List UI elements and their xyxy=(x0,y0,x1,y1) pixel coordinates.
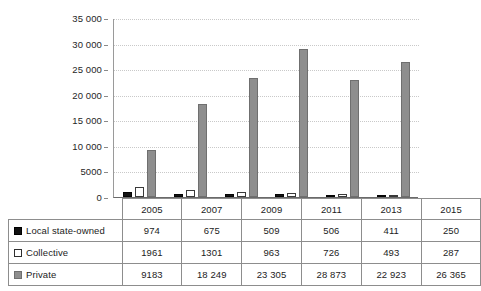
table-cell-2011: 726 xyxy=(301,242,361,264)
bar-private-2005 xyxy=(147,150,156,197)
table-cell-2007: 675 xyxy=(182,220,242,242)
bar-private-2009 xyxy=(249,78,258,197)
table-row-years: 200520072009201120132015 xyxy=(9,199,481,220)
y-tick-mark xyxy=(104,70,108,71)
bar-collective-2005 xyxy=(135,187,144,197)
y-tick-label: 35 000 xyxy=(72,14,102,24)
plot-area xyxy=(113,19,418,198)
y-tick-mark xyxy=(104,96,108,97)
table-cell-2013: 493 xyxy=(361,242,421,264)
table-row: Private918318 24923 30528 87322 92326 36… xyxy=(9,264,481,286)
legend-swatch-icon xyxy=(14,227,22,235)
table-cell-2011: 506 xyxy=(301,220,361,242)
table-cell-2009: 23 305 xyxy=(242,264,302,286)
table-cell-2005: 9183 xyxy=(122,264,182,286)
series-label: Local state-owned xyxy=(26,225,105,236)
y-tick-label: 15 000 xyxy=(72,116,102,126)
bar-collective-2007 xyxy=(186,190,195,197)
bar-collective-2009 xyxy=(237,192,246,197)
column-header-2013: 2013 xyxy=(361,199,421,220)
table-cell-2015: 26 365 xyxy=(421,264,481,286)
y-tick-mark xyxy=(104,172,108,173)
legend-swatch-icon xyxy=(14,271,22,279)
table-cell-2007: 18 249 xyxy=(182,264,242,286)
table-cell-2005: 974 xyxy=(122,220,182,242)
series-label: Collective xyxy=(26,247,68,258)
legend-item-private: Private xyxy=(9,264,123,286)
legend-swatch-icon xyxy=(14,249,22,257)
column-header-2011: 2011 xyxy=(301,199,361,220)
bar-collective-2015 xyxy=(389,195,398,197)
y-tick-label: 25 000 xyxy=(72,65,102,75)
table-cell-2013: 411 xyxy=(361,220,421,242)
bar-group-2013 xyxy=(317,18,368,197)
bar-group-2011 xyxy=(267,18,318,197)
bar-private-2013 xyxy=(350,80,359,197)
bar-group-2007 xyxy=(165,18,216,197)
bar-collective-2011 xyxy=(287,193,296,197)
bar-collective-2013 xyxy=(338,194,347,197)
table-cell-2009: 963 xyxy=(242,242,302,264)
y-tick-mark xyxy=(104,19,108,20)
bar-local-state-owned-2005 xyxy=(123,192,132,197)
bar-local-state-owned-2007 xyxy=(174,194,183,197)
y-tick-label: 5000 xyxy=(80,167,102,177)
bar-local-state-owned-2015 xyxy=(377,195,386,197)
table-cell-2011: 28 873 xyxy=(301,264,361,286)
y-tick-mark xyxy=(104,147,108,148)
table-cell-2007: 1301 xyxy=(182,242,242,264)
table-row: Collective19611301963726493287 xyxy=(9,242,481,264)
bar-private-2015 xyxy=(401,62,410,197)
bar-group-2015 xyxy=(368,18,419,197)
bar-group-2005 xyxy=(114,18,165,197)
legend-item-collective: Collective xyxy=(9,242,123,264)
table-cell-2009: 509 xyxy=(242,220,302,242)
table-body: 200520072009201120132015Local state-owne… xyxy=(9,199,481,286)
y-tick-label: 30 000 xyxy=(72,40,102,50)
bar-private-2011 xyxy=(299,49,308,197)
y-tick-label: 10 000 xyxy=(72,142,102,152)
bar-local-state-owned-2009 xyxy=(225,194,234,197)
bar-private-2007 xyxy=(198,104,207,197)
column-header-2007: 2007 xyxy=(182,199,242,220)
bar-group-2009 xyxy=(216,18,267,197)
column-header-2009: 2009 xyxy=(242,199,302,220)
table-cell-2015: 287 xyxy=(421,242,481,264)
table-row: Local state-owned974675509506411250 xyxy=(9,220,481,242)
y-tick-mark xyxy=(104,45,108,46)
column-header-2015: 2015 xyxy=(421,199,481,220)
table-cell-2015: 250 xyxy=(421,220,481,242)
y-tick-mark xyxy=(104,121,108,122)
series-label: Private xyxy=(26,269,56,280)
table-cell-2005: 1961 xyxy=(122,242,182,264)
bar-local-state-owned-2013 xyxy=(326,195,335,197)
table-corner-cell xyxy=(9,199,123,220)
column-header-2005: 2005 xyxy=(122,199,182,220)
table-cell-2013: 22 923 xyxy=(361,264,421,286)
data-table: 200520072009201120132015Local state-owne… xyxy=(8,198,481,286)
bar-local-state-owned-2011 xyxy=(275,194,284,197)
y-tick-label: 20 000 xyxy=(72,91,102,101)
y-axis: 35 00030 00025 00020 00015 00010 0005000… xyxy=(0,19,108,198)
legend-item-local-state-owned: Local state-owned xyxy=(9,220,123,242)
